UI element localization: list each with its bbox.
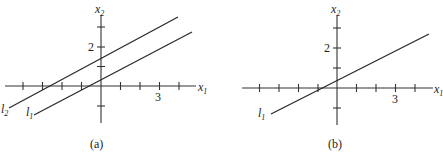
- x-axis-label: x1: [433, 82, 443, 98]
- y-tick-label: 2: [88, 40, 94, 54]
- caption-b: (b): [328, 137, 342, 151]
- x-axis-label: x1: [197, 80, 207, 96]
- x-tick-label: 3: [392, 92, 398, 106]
- x-tick-label: 3: [155, 90, 161, 104]
- y-axis-label: x2: [330, 2, 340, 18]
- caption-a: (a): [90, 137, 103, 151]
- panel-b: x2 x1 2 3 l1 (b): [242, 2, 443, 151]
- figure: x2 x1 2 3 l2 l1 (a) x2 x1 2 3: [0, 0, 443, 152]
- line-l1: [34, 32, 192, 115]
- y-tick-label: 2: [324, 41, 330, 55]
- line-l2: [9, 17, 178, 108]
- label-l1: l1: [26, 105, 33, 121]
- label-l2: l2: [1, 102, 8, 118]
- label-l1: l1: [258, 106, 265, 122]
- y-axis-label: x2: [94, 2, 104, 18]
- panel-a: x2 x1 2 3 l2 l1 (a): [1, 2, 207, 151]
- line-l1: [271, 34, 429, 114]
